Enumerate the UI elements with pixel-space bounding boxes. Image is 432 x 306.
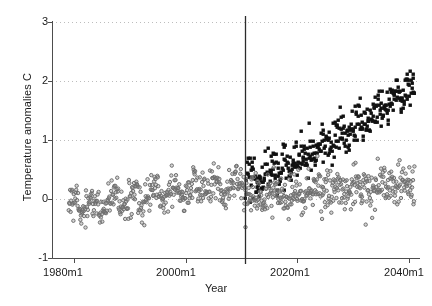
y-tick-label-3: 3 xyxy=(22,15,48,27)
x-axis-title: Year xyxy=(0,282,432,294)
y-tick-label-2: 2 xyxy=(22,74,48,86)
plot-area xyxy=(0,0,432,306)
y-tick-label-1: 1 xyxy=(22,133,48,145)
scatter-chart: Temperature anomalies C Year 3 2 1 0 -1 … xyxy=(0,0,432,306)
y-tick-label-minus1: -1 xyxy=(22,251,48,263)
y-tick-label-0: 0 xyxy=(22,192,48,204)
x-tick-label-2040: 2040m1 xyxy=(364,266,432,278)
x-tick-label-2000: 2000m1 xyxy=(136,266,216,278)
x-tick-label-2020: 2020m1 xyxy=(250,266,330,278)
x-tick-label-1980: 1980m1 xyxy=(23,266,103,278)
